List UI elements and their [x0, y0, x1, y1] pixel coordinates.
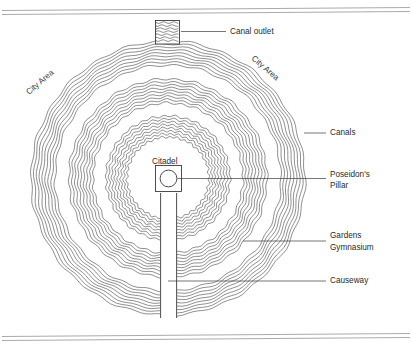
top-rule	[2, 8, 410, 15]
causeway-channel	[161, 190, 177, 320]
label-canal-outlet: Canal outlet	[230, 27, 274, 36]
atlantis-plan-svg: Canal outlet Canals Poseidon's Pillar Ga…	[0, 0, 412, 349]
canal-outlet-structure	[155, 20, 180, 44]
label-canals: Canals	[330, 128, 356, 137]
label-city-area-left: City Area	[24, 68, 55, 97]
bottom-rule	[2, 334, 410, 341]
label-poseidons-pillar-line2: Pillar	[330, 181, 348, 190]
leader-lines	[168, 32, 326, 282]
label-gardens-gymnasium-line2: Gymnasium	[330, 243, 374, 252]
diagram-canvas: Canal outlet Canals Poseidon's Pillar Ga…	[0, 0, 412, 349]
label-causeway: Causeway	[330, 276, 369, 285]
label-poseidons-pillar-line1: Poseidon's	[330, 170, 370, 179]
label-city-area-right: City Area	[250, 54, 281, 83]
label-gardens-gymnasium-line1: Gardens	[330, 231, 361, 240]
label-citadel: Citadel	[152, 157, 178, 166]
